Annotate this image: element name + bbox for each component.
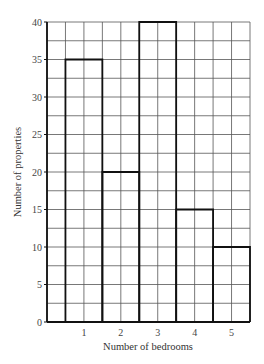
y-tick-label: 15	[32, 204, 42, 215]
y-axis-label: Number of properties	[12, 127, 23, 217]
x-tick-label: 2	[118, 327, 123, 338]
x-tick-label: 5	[229, 327, 234, 338]
y-tick-label: 30	[32, 92, 42, 103]
y-tick-label: 35	[32, 54, 42, 65]
y-tick-label: 5	[37, 279, 42, 290]
x-tick-label: 4	[192, 327, 197, 338]
y-tick-label: 25	[32, 129, 42, 140]
y-tick-label: 10	[32, 242, 42, 253]
x-tick-label: 1	[81, 327, 86, 338]
y-tick-label: 0	[37, 317, 42, 328]
grid-lines	[47, 22, 250, 322]
x-tick-label: 3	[155, 327, 160, 338]
bar-chart: 0510152025303540 12345 Number of bedroom…	[0, 0, 264, 364]
y-tick-labels: 0510152025303540	[32, 17, 47, 328]
y-tick-label: 40	[32, 17, 42, 28]
x-axis-label: Number of bedrooms	[103, 341, 193, 352]
y-tick-label: 20	[32, 167, 42, 178]
x-tick-labels: 12345	[81, 327, 234, 338]
